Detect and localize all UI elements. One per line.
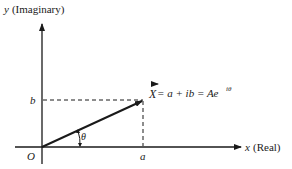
y-axis-label: y(Imaginary)	[3, 3, 65, 16]
real-part-label: a	[140, 150, 146, 162]
origin-label: O	[27, 150, 35, 162]
phasor-equation: X = a + ib = Ae iθ	[148, 84, 232, 101]
angle-label: θ	[81, 131, 86, 142]
complex-plane-diagram: y(Imaginary) x (Real) O a b θ X = a + ib…	[0, 0, 292, 169]
equation-exponent: iθ	[226, 85, 232, 93]
equation-text: = a + ib = Ae	[157, 87, 219, 99]
x-axis-var: x	[244, 141, 250, 153]
vector-label: X	[148, 87, 157, 101]
phasor-vector	[42, 101, 142, 147]
x-axis-name: (Real)	[253, 141, 281, 154]
imag-part-label: b	[30, 94, 36, 106]
